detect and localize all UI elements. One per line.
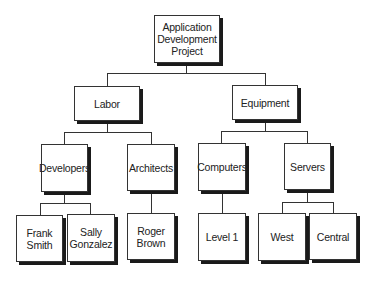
connector: [333, 202, 334, 213]
connector: [222, 191, 223, 213]
connector: [307, 190, 308, 202]
connector: [40, 203, 90, 204]
connector: [221, 131, 307, 132]
node-west: West: [258, 213, 306, 261]
node-sally-gonzalez: Sally Gonzalez: [67, 214, 115, 262]
connector: [282, 202, 283, 213]
connector: [186, 63, 187, 73]
connector: [265, 73, 266, 85]
connector: [282, 202, 333, 203]
connector: [107, 121, 108, 132]
connector: [90, 203, 91, 214]
node-labor: Labor: [74, 86, 140, 121]
node-roger-brown: Roger Brown: [127, 213, 175, 260]
connector: [265, 120, 266, 131]
connector: [64, 132, 65, 144]
node-level-1: Level 1: [198, 213, 246, 261]
node-equipment: Equipment: [232, 85, 298, 120]
node-central: Central: [309, 213, 357, 260]
node-root: Application Development Project: [154, 15, 220, 63]
connector: [151, 191, 152, 213]
node-computers: Computers: [198, 143, 246, 191]
connector: [64, 192, 65, 203]
connector: [40, 203, 41, 215]
node-architects: Architects: [127, 144, 175, 191]
connector: [64, 132, 151, 133]
connector: [307, 131, 308, 143]
node-frank-smith: Frank Smith: [16, 215, 63, 262]
connector: [107, 73, 108, 86]
node-servers: Servers: [284, 143, 331, 190]
connector: [221, 131, 222, 143]
connector: [151, 132, 152, 144]
node-developers: Developers: [41, 144, 88, 192]
connector: [107, 73, 265, 74]
